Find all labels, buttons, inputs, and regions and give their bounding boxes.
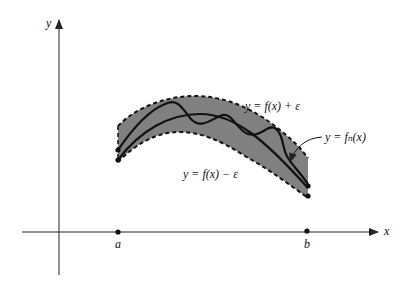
diagram-canvas: y x a b y = f(x) + ε y = f(x) − ε y = fₙ… xyxy=(0,0,409,291)
f-end-dot xyxy=(305,193,310,198)
upper-band-label: y = f(x) + ε xyxy=(244,99,300,113)
lower-band-label: y = f(x) − ε xyxy=(182,167,238,181)
point-a xyxy=(115,229,120,234)
x-axis-label: x xyxy=(383,224,390,238)
b-label: b xyxy=(304,237,310,251)
y-axis-label: y xyxy=(45,16,52,30)
fn-end-dot xyxy=(305,183,310,188)
fn-curve-label: y = fₙ(x) xyxy=(324,130,366,144)
point-b xyxy=(304,228,309,233)
f-start-dot xyxy=(115,157,120,162)
a-label: a xyxy=(115,237,121,251)
fn-start-dot xyxy=(115,147,120,152)
